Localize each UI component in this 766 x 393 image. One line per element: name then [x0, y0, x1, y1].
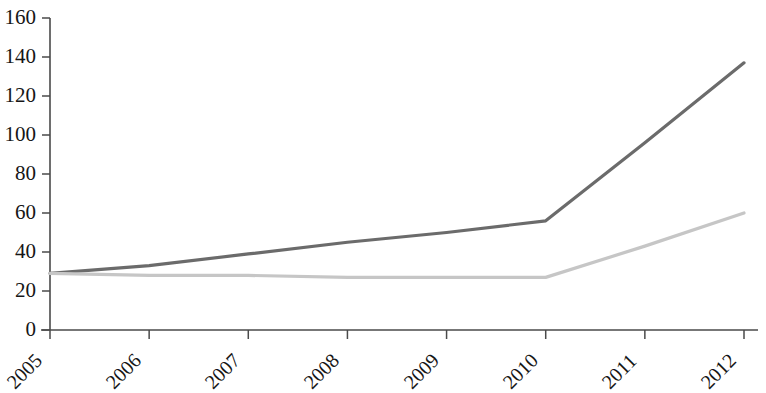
- y-axis-tick-label: 100: [0, 124, 36, 145]
- y-axis-tick-label: 20: [0, 280, 36, 301]
- y-axis-tick-label: 40: [0, 241, 36, 262]
- y-axis-tick-label: 60: [0, 202, 36, 223]
- y-axis-tick-label: 0: [0, 319, 36, 340]
- series-line-1: [50, 63, 744, 274]
- data-series: [50, 63, 744, 278]
- y-axis-tick-label: 80: [0, 163, 36, 184]
- y-axis-tick-label: 160: [0, 7, 36, 28]
- y-axis-tick-label: 140: [0, 46, 36, 67]
- axis-ticks: [42, 18, 744, 339]
- series-line-2: [50, 213, 744, 277]
- y-axis-tick-label: 120: [0, 85, 36, 106]
- axes: [41, 18, 758, 330]
